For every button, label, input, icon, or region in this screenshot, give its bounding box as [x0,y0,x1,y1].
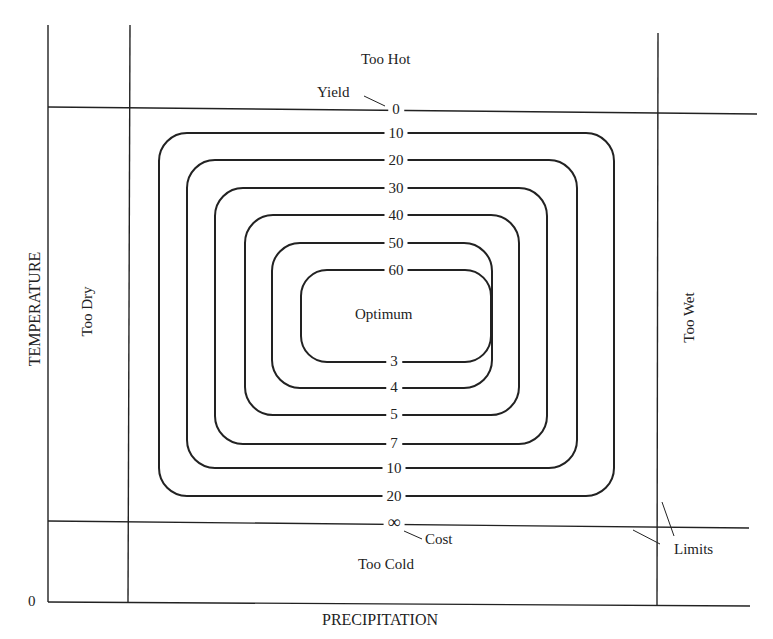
cost-label-7: 7 [386,435,402,451]
x-axis [48,602,750,606]
yield-label-30: 30 [385,180,408,196]
cost-label-infinity: ∞ [384,514,405,530]
x-axis-label: PRECIPITATION [322,612,438,628]
yield-label-0: 0 [388,101,404,117]
cost-label-20: 20 [383,488,406,504]
cost-label-5: 5 [386,406,402,422]
yield-leader [364,96,385,106]
cost-label-3: 3 [386,353,402,369]
region-too-cold: Too Cold [358,556,414,572]
limits-annotation: Limits [674,541,713,557]
yield-label-10: 10 [385,125,408,141]
y-axis-label: TEMPERATURE [26,252,44,367]
cost-leader [404,531,422,539]
region-too-hot: Too Hot [361,51,410,67]
limits-leader-2 [662,502,674,536]
origin-label: 0 [28,593,36,609]
cost-label-10: 10 [383,460,406,476]
region-too-wet: Too Wet [681,292,698,342]
yield-annotation: Yield [317,84,350,100]
cost-label-4: 4 [386,379,402,395]
cost-annotation: Cost [425,531,453,547]
region-too-dry: Too Dry [79,286,96,336]
limit-wet [657,33,658,605]
yield-label-40: 40 [385,207,408,223]
yield-label-50: 50 [385,235,408,251]
limit-dry [128,25,130,602]
yield-label-60: 60 [385,262,408,278]
region-optimum: Optimum [355,306,413,322]
yield-label-20: 20 [385,152,408,168]
limits-leader-1 [633,530,660,544]
